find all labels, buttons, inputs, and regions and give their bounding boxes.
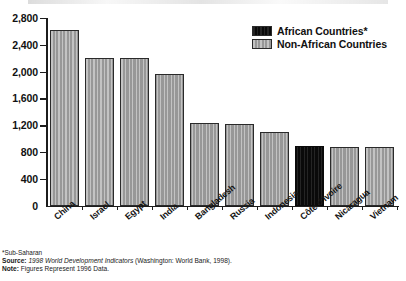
legend-item-african: African Countries* bbox=[252, 25, 402, 37]
footnote-subsaharan: *Sub-Saharan bbox=[2, 249, 332, 256]
legend-item-non-african: Non-African Countries bbox=[252, 38, 402, 50]
bar-india bbox=[155, 74, 184, 206]
y-axis-label: 400 bbox=[4, 174, 38, 184]
legend-label-non-african: Non-African Countries bbox=[277, 39, 387, 50]
x-axis-tick bbox=[257, 206, 258, 210]
legend-swatch-african bbox=[252, 26, 272, 36]
footnote-source-suffix: (Washington: World Bank, 1998). bbox=[135, 257, 232, 264]
chart-legend: African Countries* Non-African Countries bbox=[252, 25, 402, 51]
x-axis-tick bbox=[397, 206, 398, 210]
x-axis-tick bbox=[222, 206, 223, 210]
footnote-source: Source: 1998 World Development Indicator… bbox=[2, 257, 332, 265]
x-axis-tick bbox=[362, 206, 363, 210]
footnote-note: Note: Figures Represent 1996 Data. bbox=[2, 265, 332, 273]
bar-china bbox=[50, 30, 79, 206]
x-axis-tick bbox=[327, 206, 328, 210]
y-axis-label: 800 bbox=[4, 147, 38, 157]
y-axis-label: 1,200 bbox=[4, 120, 38, 130]
footnote-source-title: 1998 World Development Indicators bbox=[28, 257, 133, 264]
chart-footnotes: *Sub-Saharan Source: 1998 World Developm… bbox=[2, 249, 332, 272]
bar-israel bbox=[85, 58, 114, 206]
y-axis-label: 2,800 bbox=[4, 13, 38, 23]
legend-swatch-non-african bbox=[252, 39, 272, 49]
cropped-title-remnant bbox=[28, 0, 388, 4]
bar-chart-figure: 2,800 2,400 2,000 1,600 1,200 800 400 0 bbox=[0, 0, 406, 281]
y-axis-label: 2,000 bbox=[4, 67, 38, 77]
y-axis-label: 2,400 bbox=[4, 40, 38, 50]
bar-bangladesh bbox=[190, 123, 219, 206]
footnote-note-text: Figures Represent 1996 Data. bbox=[21, 265, 109, 272]
x-axis-tick bbox=[152, 206, 153, 210]
x-axis-tick bbox=[292, 206, 293, 210]
x-axis-tick bbox=[82, 206, 83, 210]
legend-label-african: African Countries* bbox=[277, 26, 367, 37]
y-axis-label: 0 bbox=[4, 201, 38, 211]
footnote-note-label: Note: bbox=[2, 265, 19, 272]
x-axis-tick bbox=[117, 206, 118, 210]
footnote-source-label: Source: bbox=[2, 257, 27, 264]
bar-egypt bbox=[120, 58, 149, 206]
y-axis-label: 1,600 bbox=[4, 93, 38, 103]
x-axis-tick bbox=[187, 206, 188, 210]
y-axis-labels: 2,800 2,400 2,000 1,600 1,200 800 400 0 bbox=[0, 0, 38, 281]
